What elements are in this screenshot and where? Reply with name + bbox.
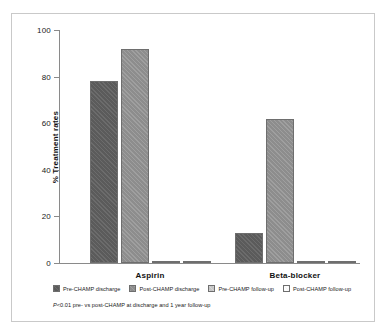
y-tick-mark [54,77,59,78]
x-group-label-aspirin: Aspirin [136,271,165,280]
legend-label: Pre-CHAMP follow-up [218,286,274,292]
legend-item-post-champ-discharge[interactable]: Post-CHAMP discharge [129,285,199,292]
legend-swatch-icon [283,285,290,292]
y-tick-label: 20 [42,212,51,221]
x-axis-line [59,263,360,264]
y-tick-mark [54,216,59,217]
legend-item-pre-champ-followup[interactable]: Pre-CHAMP follow-up [208,285,274,292]
y-tick-mark [54,170,59,171]
bar-aspirin-pre-champ-discharge [90,81,118,263]
legend-swatch-icon [53,285,60,292]
legend-label: Pre-CHAMP discharge [63,286,120,292]
y-tick-label: 100 [37,26,51,35]
y-tick-mark [54,30,59,31]
bar-aspirin-post-champ-followup [183,261,211,263]
y-tick-label: 80 [42,72,51,81]
legend-swatch-icon [208,285,215,292]
footnote-text: <0.01 pre- vs post-CHAMP at discharge an… [57,302,211,308]
bar-beta-blocker-pre-champ-followup [297,261,325,263]
chart-figure: % Treatment rates 100 80 60 40 20 0 [11,13,375,322]
legend-item-post-champ-followup[interactable]: Post-CHAMP follow-up [283,285,351,292]
bar-aspirin-pre-champ-followup [152,261,180,263]
y-tick-label: 0 [46,259,51,268]
bar-aspirin-post-champ-discharge [121,49,149,263]
y-tick-mark [54,263,59,264]
y-tick-mark [54,123,59,124]
bar-beta-blocker-pre-champ-discharge [235,233,263,263]
legend-item-pre-champ-discharge[interactable]: Pre-CHAMP discharge [53,285,120,292]
legend-label: Post-CHAMP follow-up [293,286,351,292]
bar-beta-blocker-post-champ-followup [328,261,356,263]
x-group-label-beta-blocker: Beta-blocker [270,271,321,280]
legend-swatch-icon [129,285,136,292]
chart-footnote: P<0.01 pre- vs post-CHAMP at discharge a… [53,302,211,308]
bar-beta-blocker-post-champ-discharge [266,119,294,263]
chart-legend: Pre-CHAMP discharge Post-CHAMP discharge… [53,285,351,292]
y-tick-label: 40 [42,165,51,174]
legend-label: Post-CHAMP discharge [139,286,199,292]
y-tick-label: 60 [42,119,51,128]
plot-area: % Treatment rates 100 80 60 40 20 0 [59,30,359,263]
y-axis-line [59,30,60,264]
